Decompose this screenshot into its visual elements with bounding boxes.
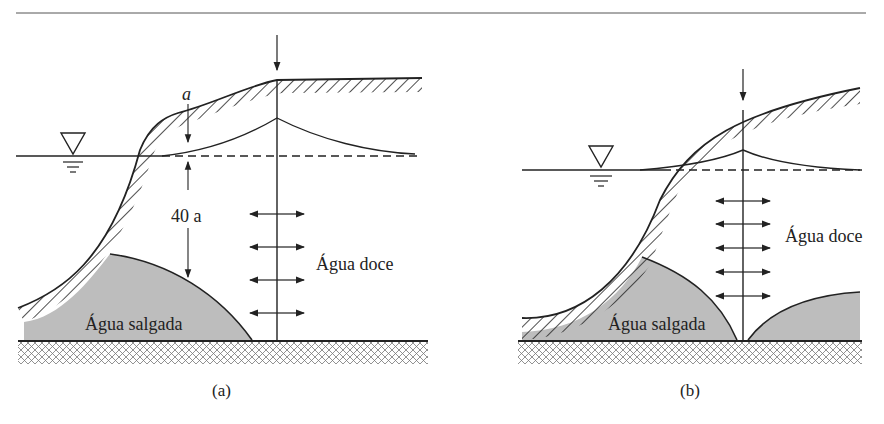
water-table-mound xyxy=(162,118,415,156)
bedrock xyxy=(18,342,428,364)
caption-a: (a) xyxy=(212,381,231,400)
bedrock-b xyxy=(518,342,862,364)
fresh-water-label: Água doce xyxy=(316,253,393,274)
panel-b: Água doce Água salgada (b) xyxy=(518,69,862,400)
salt-water-label-b: Água salgada xyxy=(608,313,705,334)
saltwater-wedge-right xyxy=(748,292,860,340)
panel-a: a 40 a Água doce Água salgada (a) xyxy=(16,35,428,400)
ground-surface-hatch xyxy=(18,78,422,322)
water-table-mound-b xyxy=(640,150,860,170)
fresh-water-label-b: Água doce xyxy=(785,225,862,246)
water-table-triangle-icon xyxy=(61,133,85,172)
label-40a: 40 a xyxy=(171,206,202,226)
water-table-triangle-icon-b xyxy=(589,146,613,186)
caption-b: (b) xyxy=(680,381,700,400)
label-a: a xyxy=(182,84,191,104)
saltwater-intrusion-diagram: a 40 a Água doce Água salgada (a) xyxy=(0,0,884,424)
salt-water-label: Água salgada xyxy=(85,313,182,334)
